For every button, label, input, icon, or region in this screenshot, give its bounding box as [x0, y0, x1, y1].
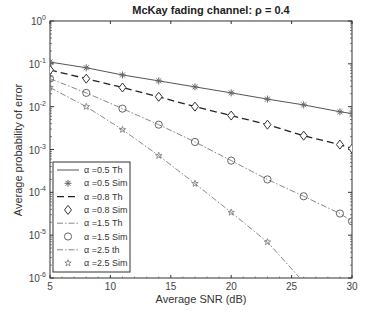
x-tick-label: 20	[226, 281, 238, 292]
y-tick-label: 10-5	[29, 228, 46, 241]
legend-label: α =0.5 Th	[84, 165, 122, 175]
legend: α =0.5 Thα =0.5 Simα =0.8 Thα =0.8 Simα …	[53, 162, 130, 272]
y-axis-label: Average probability of error	[12, 83, 24, 216]
x-tick-label: 15	[165, 281, 177, 292]
legend-label: α =0.5 Sim	[84, 178, 127, 188]
y-tick-label: 10-3	[29, 143, 46, 156]
chart: 5101520253010010-110-210-310-410-510-6 α…	[0, 0, 371, 317]
x-tick-label: 5	[47, 281, 53, 292]
legend-label: α =0.8 Th	[84, 192, 122, 202]
legend-label: α =2.5 Sim	[84, 258, 127, 268]
x-tick-label: 10	[105, 281, 117, 292]
y-tick-label: 10-1	[29, 57, 46, 70]
x-axis-label: Average SNR (dB)	[156, 293, 247, 305]
x-tick-label: 30	[346, 281, 358, 292]
y-tick-label: 100	[31, 14, 46, 27]
chart-title: McKay fading channel: ρ = 0.4	[132, 4, 290, 16]
legend-label: α =0.8 Sim	[84, 205, 127, 215]
legend-label: α =1.5 Sim	[84, 232, 127, 242]
x-tick-label: 25	[286, 281, 298, 292]
legend-label: α =2.5 th	[84, 245, 119, 255]
legend-label: α =1.5 Th	[84, 218, 122, 228]
y-tick-label: 10-2	[29, 100, 46, 113]
y-tick-label: 10-6	[29, 271, 46, 284]
y-tick-label: 10-4	[29, 185, 46, 198]
